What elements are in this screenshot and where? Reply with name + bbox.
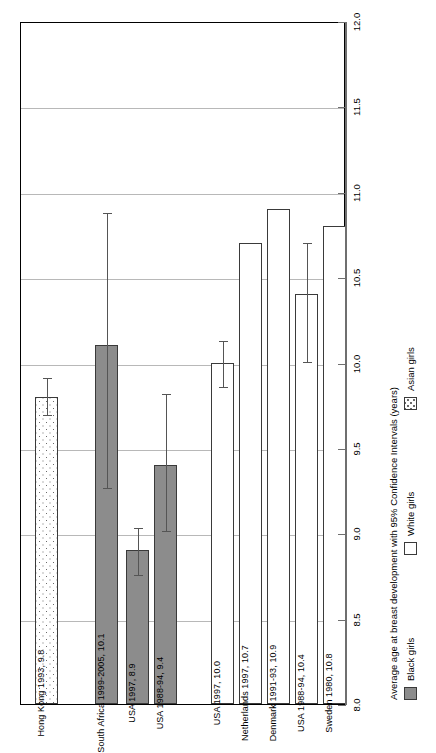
- legend-label: Black girls: [405, 638, 416, 681]
- legend-item-black[interactable]: Black girls: [404, 638, 417, 700]
- axis-title-text: Average age at breast development with 9…: [388, 387, 399, 700]
- axis-tick-label: 9.5: [351, 442, 362, 455]
- error-bar-cap-bottom: [43, 415, 52, 416]
- axis-tick-label: 9.0: [351, 528, 362, 541]
- error-bar: [223, 341, 224, 389]
- bar-label: Sweden 1980, 10.8: [324, 653, 335, 732]
- legend-swatch-asian-icon: [404, 397, 417, 410]
- axis-tick: [338, 534, 346, 535]
- error-bar-cap-top: [134, 528, 143, 529]
- gridline: [21, 279, 344, 280]
- error-bar-cap-bottom: [103, 488, 112, 489]
- axis-tick-label: 12.0: [351, 13, 362, 32]
- axis-tick: [338, 364, 346, 365]
- axis-tick-label: 11.0: [351, 184, 362, 202]
- axis-tick: [338, 107, 346, 108]
- bar-label: USA 1988-94, 10.4: [296, 654, 307, 732]
- axis-tick: [338, 278, 346, 279]
- axis-tick: [338, 22, 346, 23]
- error-bar-cap-bottom: [303, 362, 312, 363]
- error-bar-cap-top: [103, 213, 112, 214]
- axis-tick: [338, 193, 346, 194]
- gridline: [21, 194, 344, 195]
- error-bar-cap-top: [43, 378, 52, 379]
- legend-item-asian[interactable]: Asian girls: [404, 347, 417, 410]
- bar-label: Netherlands 1997, 10.7: [240, 645, 251, 741]
- bar-label: USA 1988-94, 9.4: [155, 657, 166, 730]
- legend-swatch-black-icon: [404, 687, 417, 700]
- error-bar: [107, 213, 108, 490]
- bar[interactable]: Hong Kong 1993, 9.8: [35, 397, 58, 704]
- bar[interactable]: Denmark 1991-93, 10.9: [267, 209, 290, 704]
- axis-tick: [338, 705, 346, 706]
- bar-label: Denmark 1991-93, 10.9: [268, 645, 279, 742]
- axis-tick-label: 8.5: [351, 613, 362, 626]
- bar-label: USA 1997, 10.0: [212, 661, 223, 725]
- bar-label: USA 1997, 8.9: [127, 663, 138, 722]
- error-bar-cap-top: [219, 341, 228, 342]
- gridline: [21, 108, 344, 109]
- axis-tick-label: 10.5: [351, 269, 362, 288]
- error-bar-cap-bottom: [134, 575, 143, 576]
- axis-tick-label: 10.0: [351, 354, 362, 373]
- legend-label: White girls: [405, 492, 416, 536]
- axis-tick-label: 8.0: [351, 698, 362, 711]
- bar-label: South Africa 1999-2005, 10.1: [96, 633, 107, 752]
- error-bar: [47, 378, 48, 416]
- legend-swatch-white-icon: [404, 542, 417, 555]
- error-bar: [138, 528, 139, 576]
- bar[interactable]: Sweden 1980, 10.8: [323, 226, 346, 704]
- bar-label: Hong Kong 1993, 9.8: [36, 650, 47, 737]
- plot-area: Hong Kong 1993, 9.8South Africa 1999-200…: [20, 22, 345, 705]
- axis-tick-label: 11.5: [351, 98, 362, 116]
- axis-tick: [338, 449, 346, 450]
- bar[interactable]: Netherlands 1997, 10.7: [239, 243, 262, 704]
- axis-tick: [338, 620, 346, 621]
- legend-item-white[interactable]: White girls: [404, 492, 417, 555]
- error-bar-cap-top: [162, 394, 171, 395]
- value-axis: [345, 22, 347, 705]
- legend-label: Asian girls: [405, 347, 416, 391]
- error-bar: [307, 243, 308, 363]
- error-bar-cap-bottom: [219, 387, 228, 388]
- error-bar-cap-top: [303, 243, 312, 244]
- error-bar: [166, 394, 167, 532]
- chart-root: Hong Kong 1993, 9.8South Africa 1999-200…: [0, 0, 436, 753]
- error-bar-cap-bottom: [162, 531, 171, 532]
- bar[interactable]: USA 1997, 10.0: [211, 363, 234, 705]
